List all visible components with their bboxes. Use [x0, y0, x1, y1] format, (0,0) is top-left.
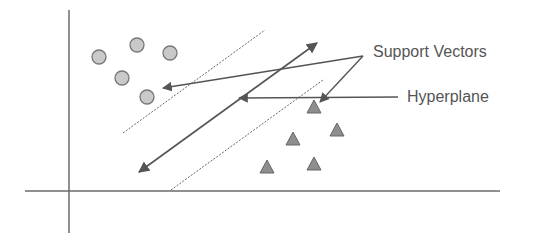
support-vectors-label: Support Vectors	[373, 44, 487, 60]
triangle-point-icon	[307, 100, 321, 113]
circle-point-icon	[140, 90, 154, 104]
triangle-point-icon	[286, 132, 300, 145]
triangle-point-icon	[307, 157, 321, 170]
support-vector-pointer-left	[163, 56, 363, 88]
support-vector-pointer-right	[320, 56, 363, 102]
circle-point-icon	[130, 38, 144, 52]
hyperplane-pointer	[239, 97, 398, 98]
triangle-point-icon	[330, 123, 344, 136]
circle-point-icon	[115, 71, 129, 85]
hyperplane-label: Hyperplane	[407, 89, 489, 105]
circle-point-icon	[163, 46, 177, 60]
class-a-circles	[92, 38, 177, 104]
lower-margin-line	[171, 80, 323, 190]
hyperplane-line	[139, 43, 317, 172]
circle-point-icon	[92, 50, 106, 64]
class-b-triangles	[260, 100, 344, 173]
svm-diagram	[0, 0, 545, 243]
triangle-point-icon	[260, 160, 274, 173]
